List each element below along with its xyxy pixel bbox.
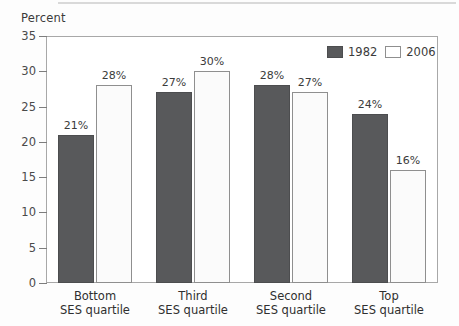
y-axis-tick: [39, 107, 47, 108]
y-axis-tick: [39, 283, 47, 284]
y-axis: 05101520253035: [0, 0, 36, 326]
y-axis-tick-label: 25: [2, 100, 36, 114]
x-axis-group-label-line: SES quartile: [158, 303, 228, 317]
x-axis-group-label-line: Bottom: [60, 289, 130, 303]
x-axis-group-label: ThirdSES quartile: [158, 289, 228, 317]
y-axis-tick-label: 20: [2, 135, 36, 149]
scan-artifact-line: [58, 2, 456, 4]
y-axis-tick-label: 35: [2, 29, 36, 43]
y-axis-tick-label: 5: [2, 241, 36, 255]
y-axis-tick-label: 10: [2, 205, 36, 219]
bar-value-label: 28%: [260, 69, 284, 82]
x-axis-group-label-line: SES quartile: [256, 303, 326, 317]
x-axis-group-label-line: SES quartile: [354, 303, 424, 317]
x-axis-group-label-line: Top: [354, 289, 424, 303]
y-axis-tick: [39, 177, 47, 178]
bar-1982-bottom: [58, 135, 94, 283]
bar-2006-bottom: [96, 85, 132, 283]
x-axis-group-label: BottomSES quartile: [60, 289, 130, 317]
y-axis-tick: [39, 36, 47, 37]
x-axis-group-label-line: Third: [158, 289, 228, 303]
bar-2006-second: [292, 92, 328, 283]
bar-chart-figure: Percent 05101520253035 21%28%27%30%28%27…: [0, 0, 459, 326]
bar-1982-third: [156, 92, 192, 283]
legend-item-2006: 2006: [385, 45, 435, 59]
bar-1982-second: [254, 85, 290, 283]
x-axis-group-label-line: Second: [256, 289, 326, 303]
bar-value-label: 28%: [102, 69, 126, 82]
legend-label-1982: 1982: [348, 45, 377, 59]
y-axis-tick: [39, 71, 47, 72]
legend-label-2006: 2006: [406, 45, 435, 59]
legend-swatch-icon-2006: [385, 46, 401, 58]
x-axis-group-label: TopSES quartile: [354, 289, 424, 317]
bar-value-label: 24%: [358, 98, 382, 111]
bar-value-label: 27%: [162, 76, 186, 89]
legend-swatch-icon-1982: [327, 46, 343, 58]
y-axis-tick-label: 0: [2, 276, 36, 290]
y-axis-tick-label: 30: [2, 64, 36, 78]
legend-item-1982: 1982: [327, 45, 377, 59]
bar-2006-third: [194, 71, 230, 283]
chart-legend: 1982 2006: [327, 45, 436, 59]
bar-2006-top: [390, 170, 426, 283]
bar-value-label: 21%: [64, 119, 88, 132]
y-axis-tick: [39, 142, 47, 143]
x-axis-group-label-line: SES quartile: [60, 303, 130, 317]
y-axis-tick: [39, 248, 47, 249]
y-axis-tick: [39, 212, 47, 213]
bar-value-label: 27%: [298, 76, 322, 89]
bar-value-label: 16%: [396, 154, 420, 167]
x-axis-group-label: SecondSES quartile: [256, 289, 326, 317]
bar-1982-top: [352, 114, 388, 283]
bar-value-label: 30%: [200, 55, 224, 68]
y-axis-tick-label: 15: [2, 170, 36, 184]
